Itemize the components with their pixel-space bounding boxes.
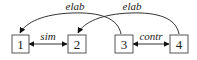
node-2: 2 [68, 35, 86, 53]
node-label: 3 [121, 37, 128, 52]
node-1: 1 [12, 35, 29, 53]
node-label: 1 [17, 37, 24, 52]
edge-label: contr [139, 30, 163, 42]
relation-diagram: elab elab sim contr 1 2 3 [0, 0, 197, 60]
arc-arrow-icon [78, 13, 179, 34]
edge-label: elab [66, 0, 85, 12]
edge-sim-1-2: sim [29, 30, 67, 44]
edge-contr-3-4: contr [133, 30, 169, 44]
edge-elab-4-to-2: elab [78, 0, 179, 34]
edge-label: sim [40, 30, 55, 42]
edge-label: elab [123, 0, 142, 12]
node-label: 4 [176, 37, 183, 52]
edge-elab-3-to-1: elab [20, 0, 121, 34]
node-label: 2 [74, 37, 81, 52]
node-3: 3 [115, 35, 133, 53]
node-4: 4 [170, 35, 188, 53]
